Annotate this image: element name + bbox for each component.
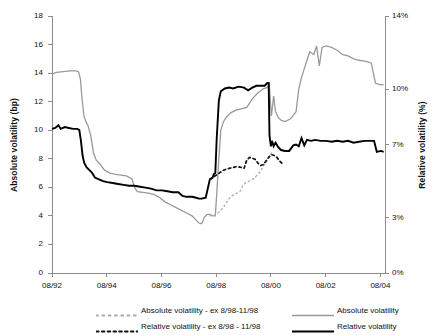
axis-layer bbox=[48, 16, 389, 277]
legend-label: Absolute volatility bbox=[337, 306, 399, 315]
legend-item: Absolute volatility - ex 8/98-11/98 bbox=[96, 303, 258, 318]
series-layer bbox=[52, 46, 384, 224]
y-axis-right-tick-label: 10% bbox=[392, 84, 422, 93]
x-axis-tick-label: 08/94 bbox=[84, 281, 130, 290]
chart-legend: Absolute volatility - ex 8/98-11/98Absol… bbox=[60, 302, 436, 335]
y-axis-left-tick-label: 2 bbox=[19, 239, 43, 248]
legend-item: Relative volatility bbox=[292, 319, 397, 334]
series-line-3 bbox=[210, 155, 283, 180]
x-axis-tick-label: 08/00 bbox=[248, 281, 294, 290]
legend-swatch-icon bbox=[292, 306, 334, 315]
y-axis-right-tick-label: 0% bbox=[392, 268, 422, 277]
y-axis-left-tick-label: 8 bbox=[19, 154, 43, 163]
y-axis-left-title: Absolute volatility (bp) bbox=[9, 75, 19, 215]
y-axis-right-tick-label: 14% bbox=[392, 11, 422, 20]
y-axis-left-tick-label: 6 bbox=[19, 182, 43, 191]
legend-label: Relative volatility bbox=[337, 322, 397, 331]
y-axis-left-tick-label: 18 bbox=[19, 11, 43, 20]
y-axis-left-tick-label: 14 bbox=[19, 68, 43, 77]
x-axis-tick-label: 08/92 bbox=[29, 281, 75, 290]
x-axis-tick-label: 08/02 bbox=[303, 281, 349, 290]
y-axis-left-tick-label: 4 bbox=[19, 211, 43, 220]
y-axis-left-tick-label: 16 bbox=[19, 40, 43, 49]
x-axis-tick-label: 08/98 bbox=[193, 281, 239, 290]
chart-figure: Absolute volatility (bp) Relative volati… bbox=[0, 0, 436, 335]
legend-label: Relative volatility - ex 8/98 - 11/98 bbox=[141, 322, 260, 331]
y-axis-left-tick-label: 0 bbox=[19, 268, 43, 277]
x-axis-tick-label: 08/04 bbox=[357, 281, 403, 290]
y-axis-left-tick-label: 10 bbox=[19, 125, 43, 134]
x-axis-tick-label: 08/96 bbox=[138, 281, 184, 290]
y-axis-right-tick-label: 7% bbox=[392, 140, 422, 149]
legend-swatch-icon bbox=[292, 322, 334, 331]
y-axis-left-tick-label: 12 bbox=[19, 97, 43, 106]
legend-label: Absolute volatility - ex 8/98-11/98 bbox=[141, 306, 258, 315]
y-axis-right-tick-label: 3% bbox=[392, 213, 422, 222]
legend-swatch-icon bbox=[96, 322, 138, 331]
legend-item: Absolute volatility bbox=[292, 303, 399, 318]
legend-swatch-icon bbox=[96, 306, 138, 315]
legend-item: Relative volatility - ex 8/98 - 11/98 bbox=[96, 319, 260, 334]
